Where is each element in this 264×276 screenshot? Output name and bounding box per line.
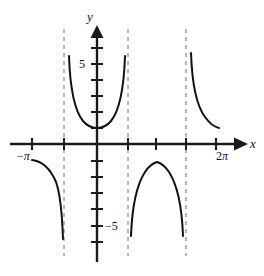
x-tick-label-two-pi: 2π: [216, 150, 228, 162]
x-axis-label: x: [250, 137, 256, 150]
curve-branch-center-lower: [131, 162, 183, 236]
x-tick-label-neg-pi: −π: [17, 150, 30, 162]
plot-canvas: [0, 0, 264, 276]
curve-branch-right-upper: [191, 53, 219, 128]
neg-pi-minus-sign: −: [17, 149, 24, 163]
y-axis-label: y: [87, 10, 93, 23]
curve-group: [32, 53, 219, 239]
y-axis-arrowhead: [91, 25, 104, 38]
y-tick-label-5: 5: [79, 58, 85, 70]
y-tick-label-neg-5: −5: [105, 220, 118, 232]
two-pi-symbol: π: [222, 149, 228, 163]
neg-pi-symbol: π: [24, 149, 30, 163]
x-axis-group: [10, 138, 248, 151]
x-axis-arrowhead: [234, 138, 248, 151]
curve-branch-left-lower: [32, 160, 63, 239]
secant-function-graph-figure: y x 5 −5 −π 2π: [0, 0, 264, 276]
